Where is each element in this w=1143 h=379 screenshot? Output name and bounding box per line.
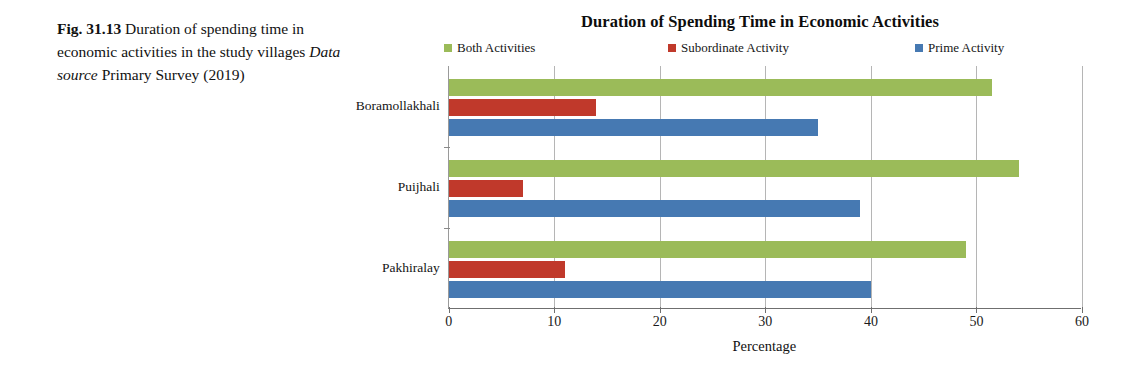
legend-label-both-activities: Both Activities bbox=[457, 40, 535, 56]
bar[interactable] bbox=[449, 180, 523, 197]
bar[interactable] bbox=[449, 261, 565, 278]
bar[interactable] bbox=[449, 160, 1019, 177]
y-axis-tick bbox=[444, 147, 450, 148]
legend-item-subordinate-activity: Subordinate Activity bbox=[668, 40, 789, 56]
bar[interactable] bbox=[449, 241, 966, 258]
bar-group: Puijhali bbox=[449, 147, 1081, 228]
chart-title: Duration of Spending Time in Economic Ac… bbox=[420, 12, 1100, 32]
legend-label-subordinate-activity: Subordinate Activity bbox=[681, 40, 789, 56]
bar[interactable] bbox=[449, 281, 871, 298]
data-source-text: Primary Survey (2019) bbox=[102, 66, 245, 83]
category-label: Puijhali bbox=[398, 179, 440, 195]
x-axis-tick-label: 0 bbox=[445, 314, 452, 330]
x-axis-tick-label: 40 bbox=[864, 314, 878, 330]
legend-item-prime-activity: Prime Activity bbox=[915, 40, 1004, 56]
figure-page: Fig. 31.13 Duration of spending time in … bbox=[0, 0, 1143, 379]
bar-group: Pakhiralay bbox=[449, 228, 1081, 309]
plot-area: 0102030405060BoramollakhaliPuijhaliPakhi… bbox=[448, 66, 1081, 309]
category-label: Pakhiralay bbox=[382, 260, 440, 276]
x-axis-tick-label: 50 bbox=[969, 314, 983, 330]
bar[interactable] bbox=[449, 99, 597, 116]
category-label: Boramollakhali bbox=[356, 98, 440, 114]
x-axis-tick-label: 60 bbox=[1075, 314, 1089, 330]
bar[interactable] bbox=[449, 200, 861, 217]
bar-group: Boramollakhali bbox=[449, 66, 1081, 147]
legend-item-both-activities: Both Activities bbox=[444, 40, 535, 56]
x-axis-tick-label: 10 bbox=[547, 314, 561, 330]
bar[interactable] bbox=[449, 119, 818, 136]
legend-swatch-both-activities bbox=[444, 44, 452, 52]
figure-caption: Fig. 31.13 Duration of spending time in … bbox=[57, 18, 357, 87]
x-axis-tick-label: 20 bbox=[653, 314, 667, 330]
grid-line bbox=[1082, 66, 1083, 308]
chart-legend: Both Activities Subordinate Activity Pri… bbox=[420, 40, 1110, 60]
figure-number: Fig. 31.13 bbox=[57, 20, 121, 37]
y-axis-tick bbox=[444, 228, 450, 229]
legend-swatch-subordinate-activity bbox=[668, 44, 676, 52]
x-axis-tick-label: 30 bbox=[758, 314, 772, 330]
x-axis-tick bbox=[1082, 307, 1083, 313]
legend-label-prime-activity: Prime Activity bbox=[928, 40, 1004, 56]
bar-chart: Duration of Spending Time in Economic Ac… bbox=[420, 6, 1120, 368]
bar[interactable] bbox=[449, 79, 993, 96]
legend-swatch-prime-activity bbox=[915, 44, 923, 52]
x-axis-title: Percentage bbox=[448, 338, 1081, 355]
